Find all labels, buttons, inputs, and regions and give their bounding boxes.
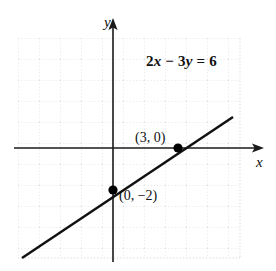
equation-coef-y: 3 [178,53,186,69]
equation-rhs: 6 [209,53,217,69]
equation-minus: − [165,53,174,69]
equation-coef-x: 2 [146,53,154,69]
x-axis-label: x [256,155,263,170]
point-label-x-intercept: (3, 0) [135,131,165,145]
equation-var-x: x [154,53,162,69]
graph-figure: y x 2x − 3y = 6 (3, 0) (0, −2) [0,0,276,271]
data-point-marker [108,185,117,194]
data-point-marker [173,143,182,152]
equation-equals: = [197,53,206,69]
equation-annotation: 2x − 3y = 6 [146,54,217,69]
point-label-y-intercept: (0, −2) [119,189,157,203]
y-axis-label: y [104,15,111,30]
equation-var-y: y [186,53,193,69]
